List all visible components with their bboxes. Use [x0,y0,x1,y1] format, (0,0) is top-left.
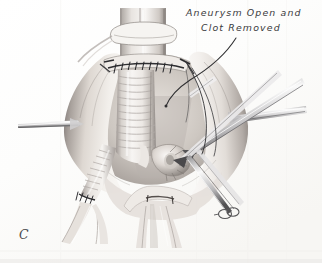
crimped-dacron-graft-group [116,70,156,164]
bottom-edge-shadow [0,259,322,263]
illustration-canvas [0,0,322,263]
callout-leader-endpoint [165,105,168,108]
graft-highlight [127,72,128,156]
umbilical-tape-band [110,22,176,45]
surgical-illustration-figure: Aneurysm Open and Clot Removed C [0,0,322,263]
